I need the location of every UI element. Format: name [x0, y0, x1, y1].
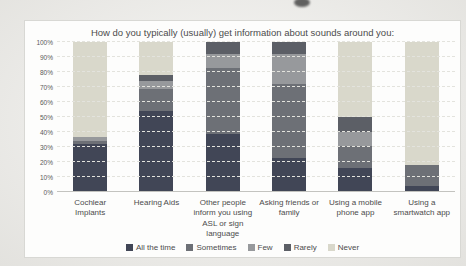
gridline [57, 131, 455, 132]
category-label: Other people inform you using ASL or sig… [190, 196, 256, 240]
stacked-bar [405, 42, 439, 192]
legend-label: All the time [136, 243, 176, 252]
legend-swatch-icon [186, 244, 193, 251]
bar-segment [139, 111, 173, 192]
y-axis-tick-label: 100% [36, 39, 53, 46]
legend-swatch-icon [328, 244, 335, 251]
bar-segment [272, 54, 306, 84]
gridline [57, 146, 455, 147]
bar-segment [139, 89, 173, 112]
y-axis-tick-label: 90% [40, 54, 53, 61]
category-label: Asking friends or family [256, 196, 322, 240]
legend-item: All the time [126, 243, 176, 252]
gridline [57, 41, 455, 42]
bars-container [57, 42, 455, 192]
gridline [57, 71, 455, 72]
category-label: Cochlear Implants [57, 196, 123, 240]
scan-artifact [294, 0, 310, 7]
category-axis: Cochlear ImplantsHearing AidsOther peopl… [57, 196, 455, 240]
y-axis-tick-label: 20% [40, 159, 53, 166]
y-axis-tick-label: 60% [40, 99, 53, 106]
category-label: Hearing Aids [123, 196, 189, 240]
gridline [57, 56, 455, 57]
y-axis-tick-label: 0% [44, 189, 53, 196]
legend-item: Rarely [284, 243, 317, 252]
y-axis-tick-label: 30% [40, 144, 53, 151]
gridline [57, 101, 455, 102]
legend-swatch-icon [248, 244, 255, 251]
bar-segment [206, 42, 240, 54]
stacked-bar [206, 42, 240, 192]
bar-segment [272, 42, 306, 54]
legend-item: Never [328, 243, 359, 252]
gridline [57, 176, 455, 177]
x-axis-line [57, 191, 455, 192]
legend-item: Few [248, 243, 273, 252]
legend-swatch-icon [284, 244, 291, 251]
bar-column [389, 42, 455, 192]
bar-segment [338, 168, 372, 192]
y-axis-tick-label: 80% [40, 69, 53, 76]
bar-column [322, 42, 388, 192]
legend-label: Few [258, 243, 273, 252]
chart-frame: How do you typically (usually) get infor… [24, 20, 461, 258]
bar-segment [272, 158, 306, 193]
bar-segment [139, 81, 173, 89]
y-axis-tick-label: 70% [40, 84, 53, 91]
stacked-bar [73, 42, 107, 192]
legend-label: Rarely [294, 243, 317, 252]
bar-column [256, 42, 322, 192]
legend-item: Sometimes [186, 243, 236, 252]
scanned-figure-page: How do you typically (usually) get infor… [0, 0, 466, 266]
bar-segment [206, 134, 240, 193]
legend-swatch-icon [126, 244, 133, 251]
legend: All the timeSometimesFewRarelyNever [25, 243, 460, 252]
bar-column [190, 42, 256, 192]
bar-segment [338, 132, 372, 146]
y-axis-tick-label: 50% [40, 114, 53, 121]
y-axis-tick-label: 40% [40, 129, 53, 136]
plot-area: 0%10%20%30%40%50%60%70%80%90%100% [57, 42, 455, 192]
stacked-bar [139, 42, 173, 192]
bar-segment [338, 42, 372, 117]
bar-segment [338, 146, 372, 169]
category-label: Using a mobile phone app [322, 196, 388, 240]
bar-column [57, 42, 123, 192]
bar-segment [338, 117, 372, 132]
gridline [57, 116, 455, 117]
bar-column [123, 42, 189, 192]
gridline [57, 86, 455, 87]
chart-title: How do you typically (usually) get infor… [25, 27, 460, 38]
legend-label: Never [338, 243, 359, 252]
category-label: Using a smartwatch app [389, 196, 455, 240]
bar-segment [73, 144, 107, 192]
gridline [57, 161, 455, 162]
stacked-bar [272, 42, 306, 192]
stacked-bar [338, 42, 372, 192]
legend-label: Sometimes [196, 243, 236, 252]
y-axis-tick-label: 10% [40, 174, 53, 181]
